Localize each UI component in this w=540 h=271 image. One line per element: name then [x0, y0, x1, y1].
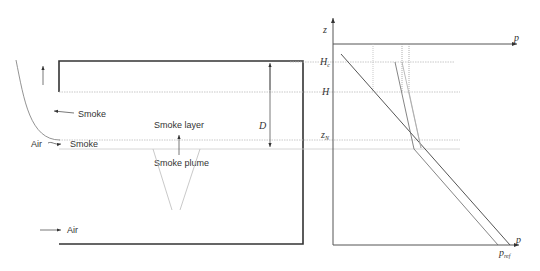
room-walls	[59, 61, 303, 244]
smoke-plume-label: Smoke plume	[154, 158, 209, 168]
smoke-layer-diagram: Smoke Air Smoke Smoke layer Smoke plume …	[0, 0, 540, 271]
smoke-exit-label: Smoke	[78, 109, 106, 119]
smoke-arrow-icon	[54, 111, 74, 113]
air-upper-arrow-icon	[48, 142, 61, 144]
p-top-label: p	[513, 32, 519, 43]
h-label: H	[321, 86, 330, 97]
zn-label: zN	[320, 129, 330, 141]
smoke-upper-label: Smoke	[70, 139, 98, 149]
inside-pressure-line-1	[395, 62, 498, 245]
outside-pressure-line	[341, 54, 510, 245]
z-axis-label: z	[322, 24, 327, 35]
pref-label: pref	[498, 247, 512, 259]
hc-label: Hc	[319, 56, 330, 68]
air-upper-label: Air	[31, 139, 42, 149]
p-bottom-label: p	[515, 234, 521, 245]
smoke-layer-label: Smoke layer	[154, 120, 204, 130]
air-lower-label: Air	[67, 225, 78, 235]
pressure-graph: z p p Hc H zN pref	[319, 18, 521, 259]
room	[59, 61, 303, 244]
exhaust-plume-curve	[16, 60, 60, 140]
depth-label: D	[258, 120, 267, 131]
